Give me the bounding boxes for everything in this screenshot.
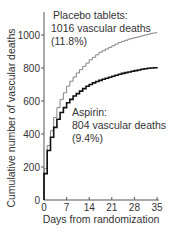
aspirin-annotation: Aspirin: 804 vascular deaths (9.4%) [72, 106, 166, 144]
x-tick-label: 21 [106, 202, 118, 213]
x-tick-label: 28 [129, 202, 141, 213]
y-tick-label: 400 [23, 129, 40, 140]
y-tick-label: 200 [23, 162, 40, 173]
y-axis-label: Cumulative number of vascular deaths [5, 28, 17, 207]
x-tick-label: 35 [151, 202, 163, 213]
aspirin-title: Aspirin: [72, 106, 107, 118]
y-tick-label: 800 [23, 63, 40, 74]
cumulative-deaths-chart: 020040060080010000714212835 Cumulative n… [0, 0, 172, 233]
x-axis-label: Days from randomization [43, 213, 160, 225]
x-tick-label: 0 [41, 202, 47, 213]
y-tick-label: 600 [23, 96, 40, 107]
x-tick-label: 7 [64, 202, 70, 213]
x-tick-label: 14 [84, 202, 96, 213]
y-tick-label: 1000 [18, 30, 41, 41]
y-tick-label: 0 [34, 195, 40, 206]
placebo-annotation: Placebo tablets: 1016 vascular deaths (1… [51, 9, 151, 47]
placebo-percent: (11.8%) [51, 35, 87, 47]
placebo-title: Placebo tablets: [53, 9, 128, 21]
aspirin-count: 804 vascular deaths [72, 119, 166, 131]
aspirin-percent: (9.4%) [72, 132, 103, 144]
placebo-count: 1016 vascular deaths [51, 22, 151, 34]
